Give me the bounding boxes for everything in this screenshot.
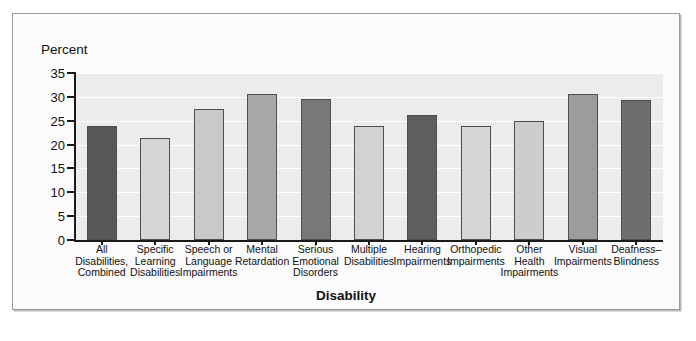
- bar: [568, 94, 598, 240]
- x-tick-label-line: Specific: [125, 244, 184, 256]
- x-tick-label-line: Impairments: [393, 256, 452, 268]
- bar: [621, 100, 651, 240]
- y-tick-mark: [67, 120, 75, 122]
- bar: [301, 99, 331, 240]
- x-axis-title: Disability: [13, 288, 679, 303]
- gridline: [75, 73, 663, 74]
- y-tick-label: 30: [37, 91, 65, 104]
- bar: [87, 126, 117, 241]
- y-tick-mark: [67, 144, 75, 146]
- y-tick-label: 10: [37, 186, 65, 199]
- x-tick-label: Deafness–Blindness: [607, 244, 666, 267]
- x-tick-label-line: Multiple: [339, 244, 398, 256]
- x-tick-label: HearingImpairments: [393, 244, 452, 267]
- x-tick-label: OtherHealthImpairments: [500, 244, 559, 279]
- y-tick-label: 25: [37, 115, 65, 128]
- y-tick-label: 5: [37, 210, 65, 223]
- x-tick-label-line: Retardation: [232, 256, 291, 268]
- x-tick-label: AllDisabilities,Combined: [72, 244, 131, 279]
- y-tick-mark: [67, 167, 75, 169]
- x-axis-tick-labels: AllDisabilities,CombinedSpecificLearning…: [75, 244, 663, 290]
- y-tick-mark: [67, 72, 75, 74]
- y-tick-label: 20: [37, 139, 65, 152]
- x-tick-label-line: Impairments: [500, 267, 559, 279]
- bar: [461, 126, 491, 240]
- bar: [514, 121, 544, 240]
- x-tick-label-line: Visual: [553, 244, 612, 256]
- y-tick-mark: [67, 96, 75, 98]
- x-tick-label-line: Blindness: [607, 256, 666, 268]
- x-tick-label-line: Impairments: [446, 256, 505, 268]
- x-tick-label-line: Disabilities: [125, 267, 184, 279]
- x-tick-label-line: Speech or: [179, 244, 238, 256]
- y-tick-mark: [67, 239, 75, 241]
- x-tick-label-line: Impairments: [179, 267, 238, 279]
- x-tick-label-line: Mental: [232, 244, 291, 256]
- x-tick-label: SpecificLearningDisabilities: [125, 244, 184, 279]
- x-tick-label: SeriousEmotionalDisorders: [286, 244, 345, 279]
- x-tick-label-line: Impairments: [553, 256, 612, 268]
- bar: [140, 138, 170, 240]
- bar: [407, 115, 437, 240]
- x-tick-label-line: Deafness–: [607, 244, 666, 256]
- y-tick-mark: [67, 191, 75, 193]
- x-tick-label-line: Orthopedic: [446, 244, 505, 256]
- y-tick-label: 0: [37, 234, 65, 247]
- y-tick-label: 35: [37, 67, 65, 80]
- x-tick-label-line: Disabilities: [339, 256, 398, 268]
- chart-figure: Percent 35302520151050 AllDisabilities,C…: [0, 0, 696, 341]
- x-tick-label-line: Other: [500, 244, 559, 256]
- x-tick-label: VisualImpairments: [553, 244, 612, 267]
- x-tick-label-line: All: [72, 244, 131, 256]
- chart-panel: Percent 35302520151050 AllDisabilities,C…: [12, 13, 680, 310]
- x-tick-label-line: Hearing: [393, 244, 452, 256]
- plot-area: [75, 73, 663, 240]
- bar: [194, 109, 224, 240]
- x-tick-label-line: Serious: [286, 244, 345, 256]
- y-axis-tick-labels: 35302520151050: [31, 14, 65, 311]
- x-tick-label-line: Disorders: [286, 267, 345, 279]
- x-tick-label: OrthopedicImpairments: [446, 244, 505, 267]
- x-tick-label: MentalRetardation: [232, 244, 291, 267]
- bar: [247, 94, 277, 240]
- bar: [354, 126, 384, 241]
- x-tick-label: Speech orLanguageImpairments: [179, 244, 238, 279]
- y-tick-mark: [67, 215, 75, 217]
- x-tick-label-line: Combined: [72, 267, 131, 279]
- y-tick-label: 15: [37, 162, 65, 175]
- x-tick-label: MultipleDisabilities: [339, 244, 398, 267]
